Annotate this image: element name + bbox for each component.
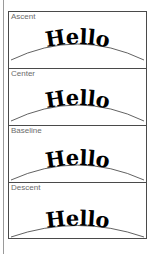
document-left-rule [3, 0, 4, 254]
alignment-panel-baseline: Baseline Hello [9, 126, 146, 183]
panel-label-center: Center [11, 69, 35, 79]
curved-text-ascent: Hello [44, 24, 112, 52]
panel-label-ascent: Ascent [11, 12, 35, 22]
panel-label-baseline: Baseline [11, 126, 42, 136]
alignment-panel-ascent: Ascent Hello [9, 12, 146, 69]
alignment-panel-descent: Descent Hello [9, 183, 146, 238]
alignment-panel-center: Center Hello [9, 69, 146, 126]
curved-text-baseline: Hello [44, 145, 112, 173]
curved-text-center: Hello [44, 85, 112, 113]
curved-text-descent: Hello [44, 205, 111, 232]
panel-label-descent: Descent [11, 183, 40, 193]
alignment-demo-panel-group: Ascent Hello Center Hello Baseline [8, 11, 147, 239]
